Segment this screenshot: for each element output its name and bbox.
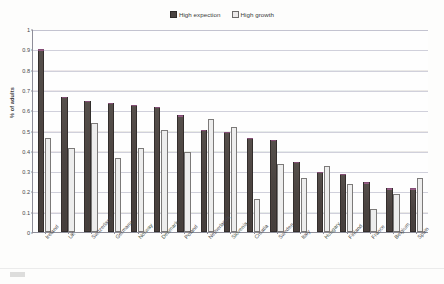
- bar-high-expection: [317, 172, 323, 232]
- bar-high-growth: [68, 148, 74, 232]
- bar-group: [382, 30, 405, 232]
- bar-high-expection: [61, 97, 67, 232]
- x-axis-label-cell: UK: [55, 234, 78, 276]
- y-axis-tick-label: 0.3: [22, 169, 30, 175]
- bar-high-growth: [161, 130, 167, 233]
- bar-high-expection: [270, 140, 276, 232]
- bar-high-growth: [208, 119, 214, 232]
- bar-group: [56, 30, 79, 232]
- legend-label-high-growth: High growth: [241, 11, 275, 18]
- bar-high-expection: [38, 49, 44, 232]
- legend-label-high-expection: High expection: [179, 11, 221, 18]
- y-axis-tick-label: 0: [27, 230, 30, 236]
- scan-artifact-line: [0, 268, 444, 269]
- x-axis-label-cell: Italy: [288, 234, 311, 276]
- legend-entry-high-expection: High expection: [170, 11, 221, 18]
- bar-high-expection: [247, 138, 253, 232]
- bar-high-growth: [45, 138, 51, 232]
- bar-high-growth: [347, 184, 353, 232]
- y-axis-tick-label: 0.2: [22, 189, 30, 195]
- bar-group: [172, 30, 195, 232]
- legend-entry-high-growth: High growth: [232, 11, 275, 18]
- y-axis-tick-label: 1: [27, 27, 30, 33]
- bar-group: [335, 30, 358, 232]
- y-axis-tick-label: 0.6: [22, 108, 30, 114]
- x-axis-label-cell: Sweden: [265, 234, 288, 276]
- plot-area: 00.10.20.30.40.50.60.70.80.91: [32, 30, 428, 233]
- bar-high-growth: [417, 178, 423, 232]
- x-axis-label-cell: Slovenia: [218, 234, 241, 276]
- y-axis-title: % of adults: [9, 87, 15, 118]
- bar-group: [103, 30, 126, 232]
- x-axis-label-cell: Hungary: [312, 234, 335, 276]
- bar-group: [242, 30, 265, 232]
- y-axis-tick-label: 0.7: [22, 88, 30, 94]
- bar-group: [265, 30, 288, 232]
- bar-high-expection: [363, 182, 369, 232]
- bar-group: [312, 30, 335, 232]
- bar-group: [126, 30, 149, 232]
- y-axis-tick-label: 0.5: [22, 129, 30, 135]
- scan-artifact-mark: [10, 272, 25, 277]
- bar-high-expection: [84, 101, 90, 232]
- dark-square-icon: [170, 11, 177, 18]
- bar-high-growth: [301, 178, 307, 232]
- bar-high-expection: [293, 162, 299, 232]
- x-axis-label-cell: Ireland: [32, 234, 55, 276]
- x-axis-label-cell: Finland: [335, 234, 358, 276]
- bar-group: [33, 30, 56, 232]
- y-axis-tick-label: 0.8: [22, 68, 30, 74]
- bar-groups: [33, 30, 428, 232]
- bar-group: [196, 30, 219, 232]
- bar-high-expection: [386, 188, 392, 232]
- y-axis-tick-label: 0.9: [22, 47, 30, 53]
- bar-high-growth: [115, 158, 121, 232]
- bar-group: [358, 30, 381, 232]
- chart-legend: High expection High growth: [0, 11, 444, 18]
- bar-group: [289, 30, 312, 232]
- x-axis-label-cell: Denmark: [148, 234, 171, 276]
- x-axis-label-cell: Poland: [172, 234, 195, 276]
- bar-high-growth: [91, 123, 97, 232]
- bar-high-expection: [201, 130, 207, 233]
- bar-high-growth: [393, 194, 399, 232]
- x-axis-label-cell: Spain: [405, 234, 428, 276]
- bar-high-expection: [177, 115, 183, 232]
- bar-high-expection: [131, 105, 137, 232]
- x-axis-label-cell: Germany: [102, 234, 125, 276]
- y-axis-tick-label: 0.1: [22, 210, 30, 216]
- bar-high-expection: [108, 103, 114, 232]
- bar-high-growth: [231, 127, 237, 232]
- bar-group: [79, 30, 102, 232]
- bar-high-growth: [184, 152, 190, 232]
- bar-group: [219, 30, 242, 232]
- x-axis-label-cell: Norway: [125, 234, 148, 276]
- bar-high-growth: [277, 164, 283, 232]
- light-square-icon: [232, 11, 239, 18]
- x-axis-label-cell: Switzerland: [79, 234, 102, 276]
- x-axis-label-cell: Croatia: [242, 234, 265, 276]
- bar-high-growth: [324, 166, 330, 232]
- bar-high-growth: [138, 148, 144, 232]
- x-axis-label-cell: France: [358, 234, 381, 276]
- bar-high-expection: [154, 107, 160, 232]
- x-axis-label-cell: Belgium: [381, 234, 404, 276]
- bar-group: [405, 30, 428, 232]
- bar-high-expection: [410, 188, 416, 232]
- x-axis-label-cell: Netherlands: [195, 234, 218, 276]
- y-axis-tick-label: 0.4: [22, 149, 30, 155]
- bar-group: [149, 30, 172, 232]
- x-axis-labels: IrelandUKSwitzerlandGermanyNorwayDenmark…: [32, 234, 428, 276]
